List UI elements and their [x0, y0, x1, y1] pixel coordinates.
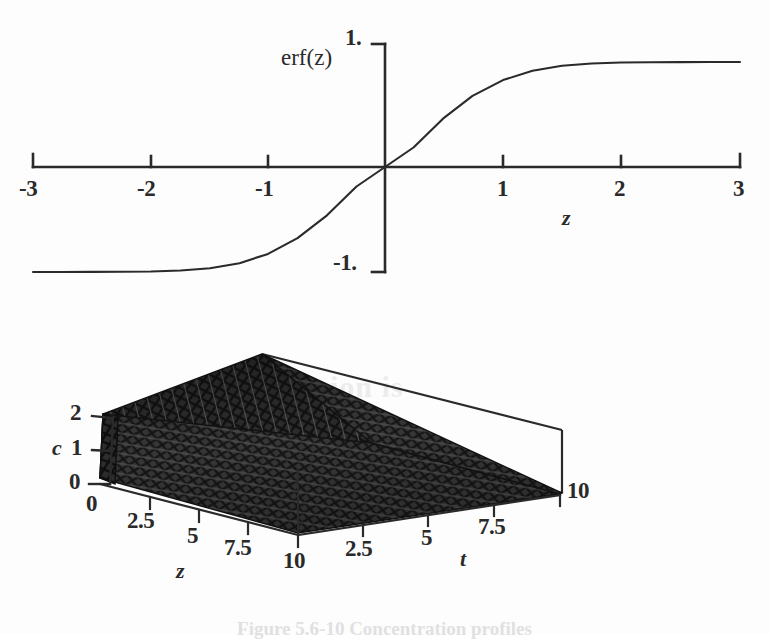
surface-t-tick-5: 5 [421, 525, 432, 551]
surface-z-tick-10: 10 [283, 548, 305, 574]
surface-c-axis-label: c [52, 435, 62, 461]
surface-c-tick-2: 2 [70, 400, 81, 426]
c-tick-1 [92, 450, 111, 451]
erf-y-axis-label: erf(z) [281, 45, 332, 71]
surface-c-tick-0: 0 [69, 469, 80, 495]
erf-x-tick--1: -1 [255, 176, 273, 202]
surface-z-tick-2.5: 2.5 [127, 508, 154, 534]
erf-x-tick-3: 3 [733, 176, 744, 202]
surface-t-axis-label: t [460, 546, 466, 572]
erf-y-tick-1: 1. [345, 25, 361, 51]
surface-z-axis-label: z [176, 558, 185, 584]
surface-t-tick-10: 10 [567, 478, 589, 504]
figure-caption: Figure 5.6-10 Concentration profiles [0, 618, 769, 640]
erf-plot-panel: erf(z) 1. -1. -3 -2 -1 1 2 3 z [0, 0, 769, 320]
surface-t-tick-7.5: 7.5 [478, 514, 505, 540]
surface-z-tick-5: 5 [187, 523, 198, 549]
surface-t-tick-2.5: 2.5 [345, 536, 372, 562]
surface-plot-svg [0, 318, 769, 634]
erf-x-axis-label: z [562, 205, 571, 231]
erf-x-tick-1: 1 [497, 176, 508, 202]
surface-z-tick-0: 0 [86, 491, 97, 517]
erf-plot-svg [0, 0, 769, 320]
erf-x-tick-2: 2 [614, 176, 625, 202]
erf-y-tick-minus1: -1. [333, 250, 356, 276]
surface-c-tick-1: 1 [71, 435, 82, 461]
erf-x-tick--2: -2 [137, 176, 155, 202]
erf-x-tick--3: -3 [19, 176, 37, 202]
surface-z-tick-7.5: 7.5 [224, 535, 251, 561]
surface-plot-panel: ion is nomist [0, 318, 769, 634]
